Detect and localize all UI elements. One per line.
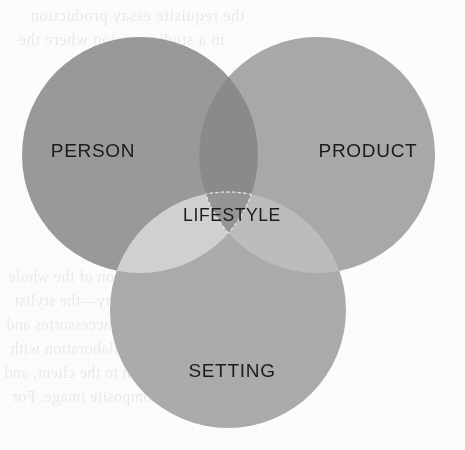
venn-label-lifestyle: LIFESTYLE <box>183 205 281 225</box>
venn-diagram: PERSON PRODUCT SETTING LIFESTYLE <box>0 0 465 450</box>
venn-label-person: PERSON <box>51 140 135 161</box>
scanned-page: the requisite essay productionin a studi… <box>0 0 465 450</box>
venn-label-setting: SETTING <box>188 360 275 381</box>
venn-label-product: PRODUCT <box>319 140 418 161</box>
venn-diagram-svg: PERSON PRODUCT SETTING LIFESTYLE <box>0 0 465 450</box>
